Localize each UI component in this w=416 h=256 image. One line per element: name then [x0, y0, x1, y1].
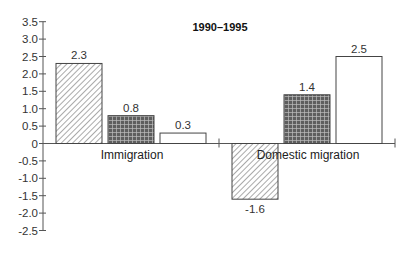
value-label: 2.3 [71, 49, 87, 61]
bar-immigration-3 [160, 133, 206, 143]
bar-immigration-2 [108, 116, 154, 144]
category-label: Immigration [101, 148, 164, 162]
category-label: Domestic migration [257, 148, 360, 162]
bar-chart: 1990–1995 3.53.02.52.01.51.00.50-0.5-1.0… [0, 0, 416, 256]
y-tick-label: 0 [32, 138, 38, 150]
bars [56, 57, 382, 200]
bar-domestic-migration-2 [284, 95, 330, 144]
y-tick-label: -2.0 [18, 207, 38, 219]
y-tick-label: 3.0 [22, 33, 38, 45]
y-axis: 3.53.02.52.01.51.00.50-0.5-1.0-1.5-2.0-2… [18, 16, 46, 237]
value-label: 0.3 [175, 119, 191, 131]
y-tick-label: 0.5 [22, 120, 38, 132]
value-label: -1.6 [245, 203, 265, 215]
y-tick-label: 1.0 [22, 103, 38, 115]
value-label: 1.4 [299, 81, 316, 93]
y-tick-label: 1.5 [22, 85, 38, 97]
bar-immigration-1 [56, 63, 102, 143]
y-tick-label: -0.5 [18, 155, 38, 167]
y-tick-label: -1.0 [18, 172, 38, 184]
y-tick-label: -1.5 [18, 190, 38, 202]
value-label: 0.8 [123, 102, 139, 114]
y-tick-label: 2.5 [22, 51, 38, 63]
value-label: 2.5 [351, 43, 367, 55]
chart-title: 1990–1995 [192, 21, 247, 33]
y-tick-label: -2.5 [18, 225, 38, 237]
y-tick-label: 2.0 [22, 68, 38, 80]
bar-domestic-migration-3 [336, 57, 382, 144]
y-tick-label: 3.5 [22, 16, 38, 28]
